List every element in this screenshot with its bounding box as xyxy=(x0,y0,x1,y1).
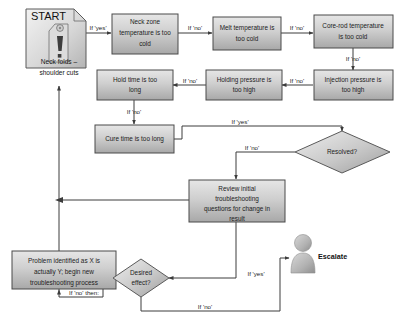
review-line2: troubleshooting xyxy=(215,195,259,203)
edge-review-to-desired: If 'yes' xyxy=(169,222,265,278)
edge-holdtime-to-curetime: If 'no' xyxy=(127,100,141,124)
hold-time-line1: Hold time is too xyxy=(113,76,157,83)
cure-time-line1: Cure time is too long xyxy=(105,135,164,143)
flowchart-page: ​ xyxy=(0,0,397,324)
node-desired-effect-decision[interactable]: Desired effect? xyxy=(113,259,169,297)
node-problem-identified[interactable]: Problem identified as X is actually Y; b… xyxy=(12,251,116,289)
melt-line1: Melt temperature is xyxy=(220,24,275,32)
edge-label-neck-no: If 'no' xyxy=(188,24,202,31)
edge-holding-to-holdtime: If 'no' xyxy=(173,77,206,85)
node-injection-pressure[interactable]: Injection pressure is too high xyxy=(314,70,393,100)
node-resolved-decision[interactable]: Resolved? xyxy=(295,131,390,173)
flowchart-canvas: If 'yes' If 'no' If 'no' If 'no' If 'no'… xyxy=(0,0,397,324)
core-line1: Core-rod temperature xyxy=(322,22,384,30)
edge-start-to-neckzone: If 'yes' xyxy=(86,24,111,33)
review-line1: Review initial xyxy=(218,185,255,192)
edge-label-inj-no: If 'no' xyxy=(290,77,304,84)
edge-label-cure-yes: If 'yes' xyxy=(231,118,248,125)
holding-pressure-line1: Holding pressure is xyxy=(217,76,272,84)
edge-core-to-injection: If 'no' xyxy=(346,48,360,70)
edge-label-desired-no: If 'no' xyxy=(198,303,212,310)
neck-folds-line2: shoulder cuts xyxy=(39,69,79,76)
edge-desired-to-escalate: If 'no' xyxy=(141,258,289,311)
edge-label-resolved-no: If 'no' xyxy=(245,144,259,151)
node-cure-time[interactable]: Cure time is too long xyxy=(95,125,174,153)
person-icon xyxy=(291,235,315,274)
edge-label-desired-no-then: If 'no' then: xyxy=(69,289,99,296)
node-hold-time[interactable]: Hold time is too long xyxy=(97,70,173,100)
resolved-label: Resolved? xyxy=(327,148,358,155)
neck-zone-line1: Neck zone xyxy=(130,18,161,25)
problem-line3: troubleshooting process xyxy=(30,279,98,287)
edge-label-start-yes: If 'yes' xyxy=(89,24,106,31)
hold-time-line2: long xyxy=(129,86,142,94)
edge-resolved-to-review: If 'no' xyxy=(236,144,295,179)
edge-curetime-to-resolved: If 'yes' xyxy=(174,118,342,139)
review-line4: result xyxy=(229,215,245,222)
node-escalate[interactable]: Escalate xyxy=(291,235,347,274)
neck-zone-line2: temperature is too xyxy=(119,29,171,37)
melt-line2: too cold xyxy=(236,35,259,42)
edge-label-holdtime-no: If 'no' xyxy=(127,108,141,115)
node-melt-temperature[interactable]: Melt temperature is too cold xyxy=(213,17,281,50)
node-review-questions[interactable]: Review initial troubleshooting questions… xyxy=(189,180,285,222)
edge-label-hold-no: If 'no' xyxy=(183,77,197,84)
edge-neckzone-to-melt: If 'no' xyxy=(178,24,212,33)
edge-label-melt-no: If 'no' xyxy=(290,24,304,31)
edge-injection-to-holding: If 'no' xyxy=(282,77,313,85)
core-line2: is too cold xyxy=(339,33,368,40)
edge-label-desired-yes: If 'yes' xyxy=(247,270,264,277)
problem-line2: actually Y; begin new xyxy=(34,268,94,276)
escalate-label: Escalate xyxy=(318,252,347,261)
edge-label-core-no: If 'no' xyxy=(346,55,360,62)
node-neck-zone[interactable]: Neck zone temperature is too cold xyxy=(112,14,178,54)
node-holding-pressure[interactable]: Holding pressure is too high xyxy=(206,70,282,100)
problem-line1: Problem identified as X is xyxy=(28,257,100,264)
injection-pressure-line2: too high xyxy=(342,86,365,94)
warning-tag-icon xyxy=(49,24,68,62)
review-line3: questions for change in xyxy=(204,205,271,213)
holding-pressure-line2: too high xyxy=(233,86,256,94)
neck-folds-line1: Neck folds – xyxy=(41,58,78,65)
neck-zone-line3: cold xyxy=(139,40,151,47)
node-core-rod[interactable]: Core-rod temperature is too cold xyxy=(314,15,393,48)
start-label: START xyxy=(31,10,66,22)
edge-melt-to-core: If 'no' xyxy=(281,24,313,33)
desired-line1: Desired xyxy=(130,269,152,276)
injection-pressure-line1: Injection pressure is xyxy=(325,76,382,84)
desired-line2: effect? xyxy=(131,279,151,286)
